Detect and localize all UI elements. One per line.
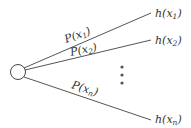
vertical-ellipsis-icon xyxy=(120,65,123,84)
branch-line-1 xyxy=(24,13,151,68)
prob-label-n: P(xn) xyxy=(69,78,100,100)
outcome-label-2: h(x2) xyxy=(155,34,182,48)
chance-node xyxy=(11,65,26,80)
outcome-label-1: h(x1) xyxy=(155,7,182,21)
lottery-tree-diagram: P(x1) P(x2) P(xn) h(x1) h(x2) h(xn) xyxy=(0,0,191,128)
outcome-label-n: h(xn) xyxy=(155,113,182,127)
